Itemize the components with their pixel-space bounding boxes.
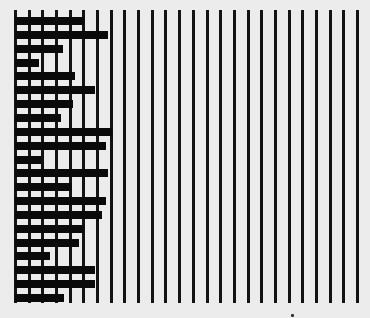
gridline (274, 10, 277, 303)
bar (15, 114, 61, 122)
gridline (69, 10, 72, 303)
bar (15, 31, 108, 39)
gridline (329, 10, 332, 303)
bar (15, 225, 84, 233)
bar (15, 72, 75, 80)
gridline (96, 10, 99, 303)
bar (15, 156, 41, 164)
bar (15, 59, 39, 67)
gridline (110, 10, 113, 303)
gridline (151, 10, 154, 303)
gridline (123, 10, 126, 303)
gridline (178, 10, 181, 303)
gridline (315, 10, 318, 303)
bar (15, 197, 106, 205)
bar (15, 17, 84, 25)
gridline (356, 10, 359, 303)
bar (15, 239, 79, 247)
bar (15, 128, 112, 136)
bar (15, 86, 95, 94)
gridline (260, 10, 263, 303)
gridline (206, 10, 209, 303)
bar-chart (0, 0, 370, 318)
bar (15, 45, 63, 53)
scan-speck (291, 314, 294, 317)
bar (15, 280, 95, 288)
bar (15, 266, 95, 274)
gridline (301, 10, 304, 303)
gridline (342, 10, 345, 303)
gridline (219, 10, 222, 303)
gridline (164, 10, 167, 303)
bar (15, 183, 72, 191)
bar (15, 211, 102, 219)
gridline (82, 10, 85, 303)
gridline (233, 10, 236, 303)
gridline (55, 10, 58, 303)
bar (15, 252, 50, 260)
bar (15, 142, 106, 150)
gridline (288, 10, 291, 303)
bar (15, 169, 108, 177)
bar (15, 294, 64, 302)
gridline (137, 10, 140, 303)
gridline (247, 10, 250, 303)
bar (15, 100, 73, 108)
gridline (192, 10, 195, 303)
